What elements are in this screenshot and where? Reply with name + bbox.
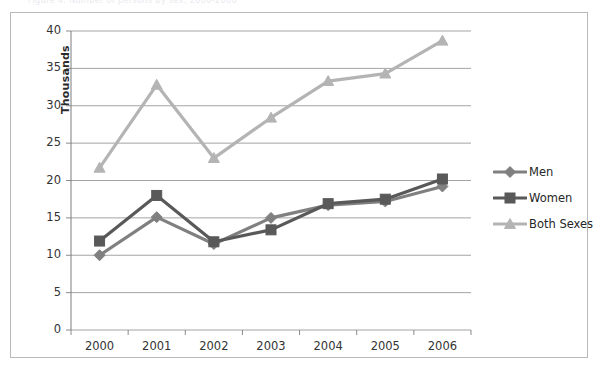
legend-item[interactable]: Both Sexes (493, 213, 593, 235)
top-caption-remnant: Figure 4. Number of persons by sex, 2000… (28, 0, 468, 6)
data-point-marker (437, 174, 447, 184)
data-point-marker (437, 35, 448, 45)
legend-item-label: Men (529, 165, 553, 179)
legend-item-label: Women (529, 191, 572, 205)
data-point-marker (151, 79, 162, 89)
legend-swatch-icon (493, 216, 527, 232)
data-point-marker (266, 212, 277, 223)
legend-swatch-icon (493, 164, 527, 180)
data-point-marker (209, 237, 219, 247)
data-point-marker (380, 194, 390, 204)
series-line-both-sexes (100, 41, 443, 168)
legend-swatch-icon (493, 190, 527, 206)
data-point-marker (266, 225, 276, 235)
chart-screenshot: Figure 4. Number of persons by sex, 2000… (0, 0, 598, 370)
chart-legend: MenWomenBoth Sexes (493, 161, 589, 241)
legend-item-label: Both Sexes (529, 217, 593, 231)
data-point-marker (95, 236, 105, 246)
data-point-marker (152, 190, 162, 200)
chart-frame: Thousands 4035302520151050 2000200120022… (10, 12, 588, 358)
data-point-marker (323, 199, 333, 209)
legend-item[interactable]: Men (493, 161, 553, 183)
legend-item[interactable]: Women (493, 187, 572, 209)
